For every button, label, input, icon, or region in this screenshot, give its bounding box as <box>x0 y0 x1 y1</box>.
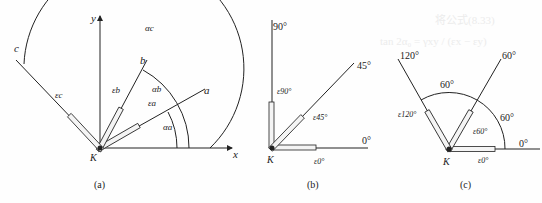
gauge-120deg <box>425 110 452 152</box>
caption-c: (c) <box>460 179 471 191</box>
angle-0-label: 0° <box>519 138 528 149</box>
gauge-0deg <box>449 147 495 152</box>
angle-120-label: 120° <box>400 50 419 61</box>
gauge-0-label: ε0° <box>478 156 489 165</box>
origin-label: K <box>442 156 451 167</box>
gauge-120-label: ε120° <box>398 110 417 119</box>
arc-angle-label-top: 60° <box>440 79 454 90</box>
origin-point <box>447 147 452 152</box>
angle-60-label: 60° <box>502 50 516 61</box>
strain-rosette-figure: 将公式(8.33) tan 2α₀ = γxy / (εx − εy) x y <box>0 0 542 203</box>
gauge-60-label: ε60° <box>473 127 488 136</box>
arc-angle-label-right: 60° <box>500 112 514 123</box>
panel-c: 120° 60° 0° 60° 60° ε120° ε60° ε0° K (c) <box>0 0 542 203</box>
